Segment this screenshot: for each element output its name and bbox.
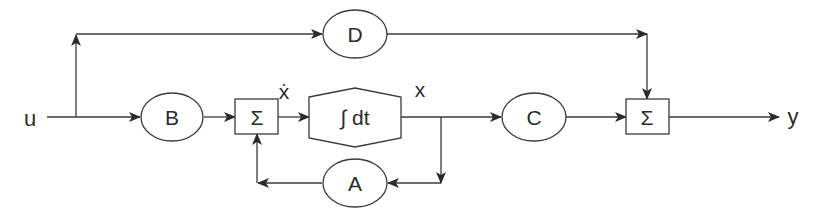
sum1-label: Σ	[251, 106, 264, 129]
block-b-label: B	[165, 106, 179, 129]
block-d-label: D	[347, 23, 362, 46]
block-diagram: u D B Σ ẋ ∫ dt x A C Σ y	[0, 0, 826, 217]
block-a-label: A	[348, 172, 362, 195]
state-derivative-label: ẋ	[279, 80, 290, 103]
block-c-label: C	[526, 106, 541, 129]
integrator-label: ∫ dt	[339, 106, 369, 130]
sum2-label: Σ	[641, 106, 654, 129]
output-label: y	[788, 104, 799, 129]
state-label: x	[415, 78, 426, 101]
input-label: u	[24, 106, 36, 131]
